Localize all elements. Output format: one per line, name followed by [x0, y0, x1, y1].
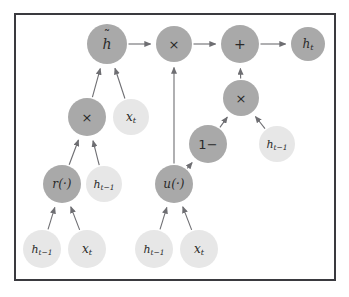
graph-node-h_tm1_right: ht−1 [259, 126, 295, 162]
graph-node-x_t_bottom_left: xt [68, 230, 106, 268]
graph-node-h_t: ht [291, 27, 325, 61]
graph-node-mult_right: × [223, 80, 259, 116]
graph-node-one_minus: 1− [189, 125, 227, 163]
node-label-h_tm1_bottom_right: ht−1 [143, 244, 164, 255]
node-label-h_t: ht [302, 38, 313, 50]
graph-node-mult_left: × [68, 98, 106, 136]
node-label-h_tm1_bottom_left: ht−1 [31, 244, 52, 255]
node-label-x_t_left_mid: xt [126, 111, 136, 123]
tilde-accent: ˜ [104, 29, 111, 42]
node-label-u_gate: u(·) [163, 178, 184, 190]
node-subscript-h_tm1_bottom_left: t−1 [39, 248, 53, 257]
graph-node-x_t_bottom_right: xt [180, 230, 218, 268]
graph-node-plus_top: + [221, 25, 259, 63]
node-label-r_gate: r(·) [52, 178, 71, 190]
graph-node-h_tm1_bottom_right: ht−1 [135, 230, 173, 268]
graph-node-h_tm1_bottom_left: ht−1 [23, 230, 61, 268]
node-label-h_tilde: h˜ [102, 37, 111, 51]
node-label-h_tm1_right: ht−1 [266, 139, 287, 150]
node-label-one_minus: 1− [198, 138, 217, 151]
node-subscript-h_t: t [310, 42, 313, 52]
graph-node-r_gate: r(·) [43, 165, 81, 203]
graph-node-x_t_left_mid: xt [113, 99, 149, 135]
node-subscript-h_tm1_right: t−1 [274, 143, 288, 152]
graph-node-u_gate: u(·) [155, 165, 193, 203]
node-subscript-h_tm1_left: t−1 [101, 183, 115, 192]
node-label-x_t_bottom_right: xt [194, 243, 204, 255]
graph-node-h_tilde: h˜ [87, 24, 127, 64]
node-label-mult_top: × [169, 38, 180, 51]
node-label-plus_top: + [234, 37, 246, 51]
node-subscript-h_tm1_bottom_right: t−1 [151, 248, 165, 257]
node-label-h_tm1_left: ht−1 [93, 179, 114, 190]
figure-root: h˜×+ht×xt×1−ht−1r(·)ht−1u(·)ht−1xtht−1xt [0, 0, 349, 297]
node-subscript-x_t_bottom_left: t [89, 247, 92, 257]
node-subscript-x_t_left_mid: t [133, 115, 136, 125]
graph-node-h_tm1_left: ht−1 [86, 166, 122, 202]
node-label-mult_right: × [236, 92, 247, 105]
node-subscript-x_t_bottom_right: t [201, 247, 204, 257]
node-label-mult_left: × [82, 111, 93, 124]
graph-node-mult_top: × [156, 26, 192, 62]
node-label-x_t_bottom_left: xt [82, 243, 92, 255]
